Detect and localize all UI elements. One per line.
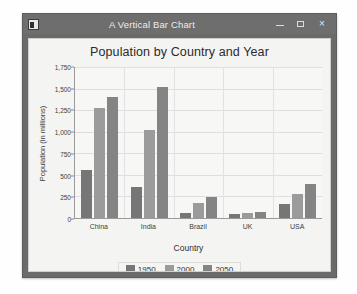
bar-groups xyxy=(75,67,322,218)
bar[interactable] xyxy=(279,204,290,218)
window-titlebar[interactable]: A Vertical Bar Chart × xyxy=(23,14,336,34)
maximize-button[interactable] xyxy=(296,20,306,29)
plot-wrapper: 02505007501,0001,2501,5001,750 xyxy=(49,67,322,219)
y-axis-tick-label: 1,750 xyxy=(55,64,71,71)
bar[interactable] xyxy=(255,212,266,218)
bar-group xyxy=(273,67,322,218)
y-axis-tick-label: 250 xyxy=(60,194,71,201)
bar[interactable] xyxy=(81,170,92,218)
y-axis-ticks: 02505007501,0001,2501,5001,750 xyxy=(49,67,74,219)
bar-group xyxy=(223,67,272,218)
chart-body: Population (in millions) 02505007501,000… xyxy=(29,63,330,231)
legend-swatch xyxy=(203,265,212,272)
y-axis-label: Population (in millions) xyxy=(36,63,50,223)
chart-title: Population by Country and Year xyxy=(29,39,330,59)
x-axis-tick-label: India xyxy=(124,223,174,230)
plot-area xyxy=(74,67,322,219)
legend-item[interactable]: 2050 xyxy=(203,265,233,272)
chart-legend: 195020002050 xyxy=(118,262,241,272)
bar[interactable] xyxy=(305,184,316,219)
x-axis-tick-label: China xyxy=(74,223,124,230)
close-button[interactable]: × xyxy=(317,19,327,29)
y-axis-tick-label: 500 xyxy=(60,172,71,179)
window-title: A Vertical Bar Chart xyxy=(29,19,275,30)
chart-window: A Vertical Bar Chart × Population by Cou… xyxy=(22,13,337,278)
y-axis-tick-label: 1,250 xyxy=(55,107,71,114)
bar[interactable] xyxy=(193,203,204,218)
legend-swatch xyxy=(126,265,135,272)
x-axis-tick-label: UK xyxy=(223,223,273,230)
screen: A Vertical Bar Chart × Population by Cou… xyxy=(0,0,357,294)
application-icon xyxy=(28,19,39,30)
bar-group xyxy=(124,67,173,218)
bar[interactable] xyxy=(131,187,142,218)
y-axis-tick-label: 1,000 xyxy=(55,129,71,136)
legend-label: 2000 xyxy=(177,265,195,272)
bar[interactable] xyxy=(157,87,168,218)
bar[interactable] xyxy=(292,194,303,218)
bar[interactable] xyxy=(94,108,105,218)
y-axis-label-text: Population (in millions) xyxy=(39,105,48,180)
bar[interactable] xyxy=(144,130,155,218)
window-controls: × xyxy=(275,19,332,29)
y-axis-tick-label: 750 xyxy=(60,150,71,157)
bar[interactable] xyxy=(242,213,253,218)
x-axis-label: Country xyxy=(29,243,330,253)
legend-item[interactable]: 1950 xyxy=(126,265,156,272)
x-axis-ticks: ChinaIndiaBrazilUKUSA xyxy=(74,223,322,230)
bar[interactable] xyxy=(206,197,217,218)
x-axis-tick-label: Brazil xyxy=(173,223,223,230)
chart-client-area: Population by Country and Year Populatio… xyxy=(28,38,331,272)
bar[interactable] xyxy=(180,213,191,218)
legend-swatch xyxy=(165,265,174,272)
x-axis-tick-label: USA xyxy=(272,223,322,230)
legend-item[interactable]: 2000 xyxy=(165,265,195,272)
legend-label: 2050 xyxy=(215,265,233,272)
bar[interactable] xyxy=(107,97,118,218)
legend-label: 1950 xyxy=(138,265,156,272)
bar-group xyxy=(174,67,223,218)
bar-group xyxy=(75,67,124,218)
minimize-button[interactable] xyxy=(275,20,285,29)
bar[interactable] xyxy=(229,214,240,218)
y-axis-tick-label: 1,500 xyxy=(55,85,71,92)
